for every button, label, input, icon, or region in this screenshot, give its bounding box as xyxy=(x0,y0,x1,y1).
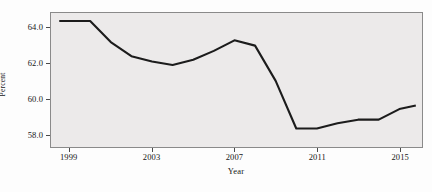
x-tick-label: 1999 xyxy=(60,152,77,162)
x-tick-label: 2015 xyxy=(392,152,409,162)
x-tick-mark xyxy=(234,148,235,152)
line-series xyxy=(51,13,422,147)
x-tick-mark xyxy=(400,148,401,152)
series-polyline xyxy=(59,21,416,129)
x-tick-mark xyxy=(69,148,70,152)
x-tick-label: 2007 xyxy=(226,152,243,162)
x-axis-label: Year xyxy=(228,166,244,176)
x-tick-label: 2003 xyxy=(143,152,160,162)
x-tick-label: 2011 xyxy=(309,152,326,162)
x-tick-mark xyxy=(317,148,318,152)
chart-figure: Percent 58.060.062.064.0 199920032007201… xyxy=(0,0,432,192)
plot-area xyxy=(50,12,423,148)
x-tick-mark xyxy=(152,148,153,152)
